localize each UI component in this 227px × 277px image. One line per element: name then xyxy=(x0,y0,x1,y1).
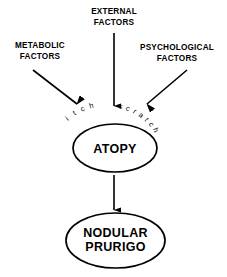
node-atopy: ATOPY xyxy=(73,124,157,172)
scratch-letter-4: t xyxy=(143,116,151,123)
arrow-metabolic-to-atopy xyxy=(33,70,77,104)
scratch-letter-1: c xyxy=(124,103,131,113)
factor-external-line2: FACTORS xyxy=(94,18,135,27)
diagram-canvas: EXTERNAL FACTORS METABOLIC FACTORS PSYCH… xyxy=(0,0,227,277)
factor-label-psychological: PSYCHOLOGICAL FACTORS xyxy=(140,43,214,63)
atopy-label: ATOPY xyxy=(93,142,137,156)
factor-psychological-line1: PSYCHOLOGICAL xyxy=(140,43,214,52)
factor-psychological-line2: FACTORS xyxy=(157,54,198,63)
factor-external-line1: EXTERNAL xyxy=(91,7,137,16)
itch-letter-0: i xyxy=(63,115,71,123)
itch-letter-3: h xyxy=(88,101,94,111)
factor-metabolic-line2: FACTORS xyxy=(20,52,61,61)
factor-label-metabolic: METABOLIC FACTORS xyxy=(15,41,65,61)
cycle-text-itch: i t c h xyxy=(63,101,94,123)
nodular-prurigo-label-line2: PRURIGO xyxy=(85,240,145,254)
itch-letter-1: t xyxy=(71,109,78,118)
scratch-letter-0: s xyxy=(118,101,124,111)
factor-label-external: EXTERNAL FACTORS xyxy=(91,7,137,27)
arrow-psychological-to-atopy xyxy=(147,70,187,104)
factor-metabolic-line1: METABOLIC xyxy=(15,41,65,50)
itch-letter-2: c xyxy=(79,104,86,114)
node-nodular-prurigo: NODULAR PRURIGO xyxy=(66,213,165,268)
scratch-letter-6: h xyxy=(151,127,161,134)
pathogenesis-flow-diagram: EXTERNAL FACTORS METABOLIC FACTORS PSYCH… xyxy=(0,0,227,277)
nodular-prurigo-label-line1: NODULAR xyxy=(83,226,148,240)
